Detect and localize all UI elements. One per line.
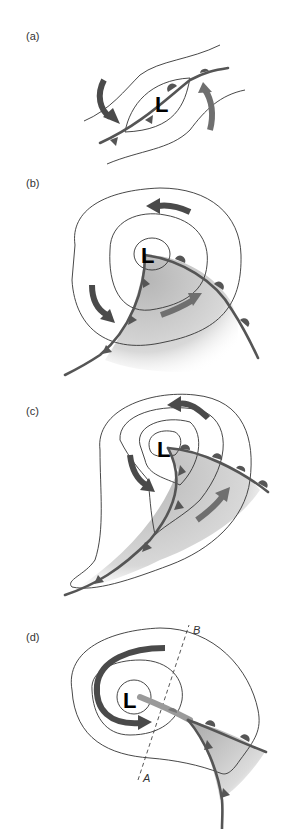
wind-arrow-icon xyxy=(205,90,212,130)
wind-arrow-icon xyxy=(100,80,110,117)
panel-b: (b) L xyxy=(0,170,296,385)
low-pressure-symbol: L xyxy=(157,437,170,462)
diagram-d: B A L xyxy=(0,600,296,829)
low-pressure-symbol: L xyxy=(155,92,168,117)
wind-arrow-icon xyxy=(92,285,107,315)
section-label-a: A xyxy=(142,772,150,784)
panel-a: (a) L xyxy=(0,0,296,175)
arrowhead-icon xyxy=(138,715,152,730)
low-pressure-symbol: L xyxy=(123,688,136,713)
occluded-front-line xyxy=(140,697,190,720)
wind-arrow-icon xyxy=(178,403,208,418)
panel-c: (c) L xyxy=(0,380,296,605)
arrowhead-icon xyxy=(167,396,181,412)
diagram-c: L xyxy=(0,380,296,605)
diagram-a: L xyxy=(0,0,296,175)
wind-arrow-icon xyxy=(158,206,190,212)
diagram-b: L xyxy=(0,170,296,385)
panel-d: (d) B A L xyxy=(0,600,296,829)
low-pressure-symbol: L xyxy=(141,243,154,268)
wind-arrow-icon xyxy=(130,455,146,485)
section-label-b: B xyxy=(193,624,200,636)
arrowhead-icon xyxy=(146,198,160,214)
arrowhead-icon xyxy=(198,82,212,93)
warm-sector xyxy=(188,720,265,800)
